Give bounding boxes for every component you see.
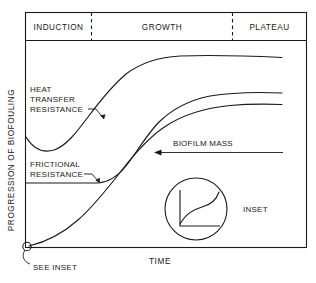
- annotation-heat-transfer-resistance-line-3: RESISTANCE: [30, 105, 83, 114]
- annotation-heat-transfer-resistance-line-2: TRANSFER: [30, 95, 75, 104]
- annotation-biofilm-mass: BIOFILM MASS: [173, 139, 233, 148]
- annotation-heat-transfer-resistance-line-1: HEAT: [30, 85, 52, 94]
- y-axis-label: PROGRESSION OF BIOFOULING: [7, 89, 16, 231]
- origin-marker-circle: [23, 242, 31, 250]
- phase-label-growth: GROWTH: [142, 23, 182, 32]
- leader-arrowhead-biofilm-mass: [154, 149, 162, 155]
- x-axis-label: TIME: [149, 257, 171, 266]
- inset-curve: [180, 192, 219, 224]
- phase-label-plateau: PLATEAU: [249, 23, 289, 32]
- annotation-frictional-resistance-line-1: FRICTIONAL: [30, 160, 80, 169]
- phase-label-induction: INDUCTION: [34, 23, 84, 32]
- figure-canvas: INDUCTION GROWTH PLATEAU PROGRESSION OF …: [0, 0, 316, 283]
- inset-label: INSET: [243, 205, 268, 214]
- biofouling-progression-figure: INDUCTION GROWTH PLATEAU PROGRESSION OF …: [0, 0, 316, 283]
- leader-see-inset: [23, 250, 30, 264]
- annotation-see-inset: SEE INSET: [33, 263, 77, 272]
- annotation-frictional-resistance-line-2: RESISTANCE: [30, 170, 83, 179]
